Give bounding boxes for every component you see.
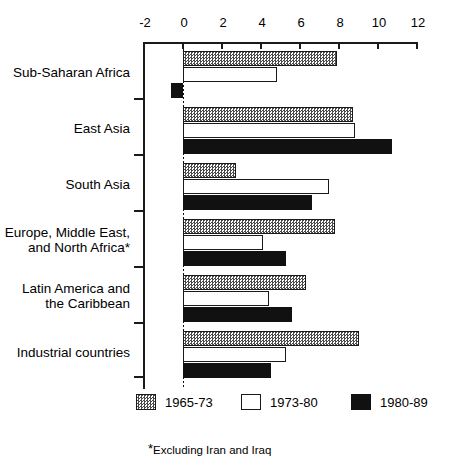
value-tick-label-4: 6 bbox=[281, 16, 321, 29]
legend-label: 1980-89 bbox=[380, 396, 428, 409]
bar-1980-89-3 bbox=[183, 251, 286, 266]
bar-1980-89-4 bbox=[183, 307, 292, 322]
value-tick-5 bbox=[338, 42, 340, 49]
category-label-line2: and North Africa* bbox=[0, 240, 130, 255]
legend-item-2: 1980-89 bbox=[351, 392, 428, 412]
category-label-line1: Europe, Middle East, bbox=[0, 225, 130, 240]
value-tick-label-6: 10 bbox=[359, 16, 399, 29]
category-tick-2 bbox=[134, 154, 144, 156]
bar-1973-80-2 bbox=[183, 179, 329, 194]
chart-footnote: *Excluding Iran and Iraq bbox=[148, 444, 271, 457]
category-label-line1: Sub-Saharan Africa bbox=[0, 65, 130, 80]
legend-label: 1965-73 bbox=[165, 396, 213, 409]
bar-1973-80-0 bbox=[183, 67, 277, 82]
category-label-line1: Industrial countries bbox=[0, 345, 130, 360]
bar-1980-89-1 bbox=[183, 139, 392, 154]
category-label-line1: South Asia bbox=[0, 177, 130, 192]
category-label-0: Sub-Saharan Africa bbox=[0, 65, 130, 80]
legend-swatch-hatched bbox=[136, 394, 156, 410]
category-tick-1 bbox=[134, 98, 144, 100]
category-tick-end bbox=[134, 376, 144, 378]
value-tick-4 bbox=[299, 42, 301, 49]
category-label-line2: the Caribbean bbox=[0, 296, 130, 311]
value-tick-2 bbox=[221, 42, 223, 49]
category-label-3: Europe, Middle East,and North Africa* bbox=[0, 225, 130, 255]
bar-1973-80-1 bbox=[183, 123, 355, 138]
category-label-line1: Latin America and bbox=[0, 281, 130, 296]
bar-1965-73-0 bbox=[183, 51, 337, 66]
legend-item-1: 1973-80 bbox=[241, 392, 318, 412]
footnote-marker: * bbox=[148, 441, 153, 456]
value-tick-label-7: 12 bbox=[398, 16, 438, 29]
bar-1973-80-3 bbox=[183, 235, 263, 250]
bar-1965-73-1 bbox=[183, 107, 353, 122]
value-tick-label-2: 2 bbox=[203, 16, 243, 29]
legend-swatch-black bbox=[351, 394, 371, 410]
category-label-line1: East Asia bbox=[0, 121, 130, 136]
legend-swatch-white bbox=[241, 394, 261, 410]
value-tick-3 bbox=[260, 42, 262, 49]
category-label-5: Industrial countries bbox=[0, 345, 130, 360]
value-tick-1 bbox=[182, 42, 184, 49]
bar-1980-89-2 bbox=[183, 195, 312, 210]
legend-item-0: 1965-73 bbox=[136, 392, 213, 412]
value-tick-label-5: 8 bbox=[320, 16, 360, 29]
category-label-1: East Asia bbox=[0, 121, 130, 136]
category-label-2: South Asia bbox=[0, 177, 130, 192]
category-axis-line bbox=[143, 44, 145, 389]
value-tick-7 bbox=[416, 42, 418, 49]
bar-1965-73-3 bbox=[183, 219, 335, 234]
bar-1980-89-0 bbox=[171, 83, 183, 98]
category-tick-3 bbox=[134, 210, 144, 212]
bar-1965-73-4 bbox=[183, 275, 306, 290]
value-tick-label-3: 4 bbox=[242, 16, 282, 29]
legend-label: 1973-80 bbox=[270, 396, 318, 409]
bar-1973-80-4 bbox=[183, 291, 269, 306]
value-tick-label-0: -2 bbox=[125, 16, 165, 29]
bar-1965-73-5 bbox=[183, 331, 359, 346]
category-tick-5 bbox=[134, 322, 144, 324]
value-tick-label-1: 0 bbox=[164, 16, 204, 29]
chart-legend: 1965-731973-801980-89 bbox=[136, 392, 436, 414]
category-label-4: Latin America andthe Caribbean bbox=[0, 281, 130, 311]
category-tick-4 bbox=[134, 266, 144, 268]
bar-1980-89-5 bbox=[183, 363, 271, 378]
bar-1965-73-2 bbox=[183, 163, 236, 178]
bar-chart: -2024681012 Sub-Saharan AfricaEast AsiaS… bbox=[0, 0, 449, 476]
footnote-text: Excluding Iran and Iraq bbox=[153, 444, 271, 456]
value-tick-6 bbox=[377, 42, 379, 49]
bar-1973-80-5 bbox=[183, 347, 286, 362]
